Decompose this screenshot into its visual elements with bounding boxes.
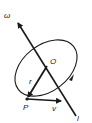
point-p-dot (25, 97, 28, 100)
rotation-diagram: ω O r P v l (0, 0, 92, 123)
center-o-label: O (50, 57, 56, 66)
orbit-direction-arrow-icon (69, 74, 74, 81)
point-p-label: P (23, 103, 29, 112)
velocity-vector (27, 99, 61, 101)
radius-r-label: r (29, 77, 32, 86)
velocity-v-label: v (52, 104, 57, 113)
omega-label: ω (4, 11, 10, 20)
axis-l-label: l (77, 114, 79, 123)
